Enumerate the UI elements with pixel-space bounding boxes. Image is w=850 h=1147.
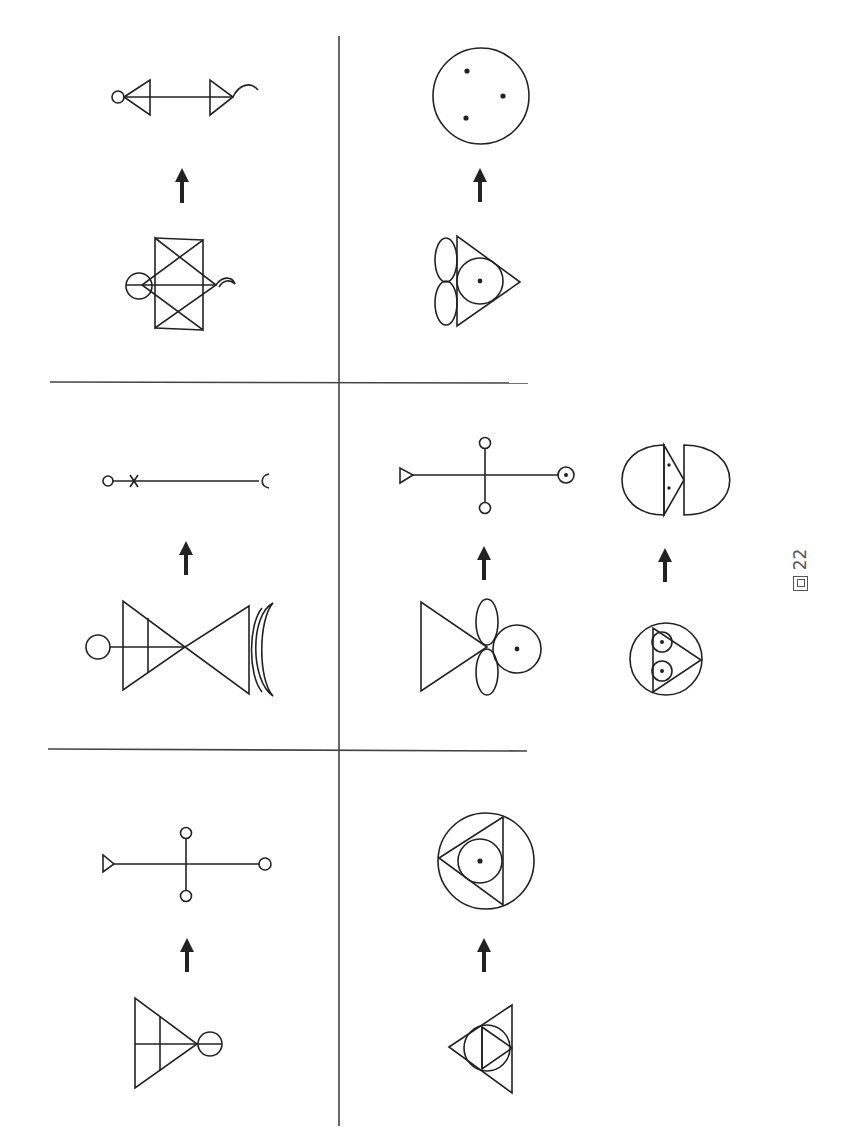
panel-top-left xyxy=(112,80,258,330)
source-figure-triangle-petals-circle xyxy=(421,599,541,695)
source-figure-triangle-ellipses xyxy=(435,236,520,326)
panel-middle-right xyxy=(400,438,574,696)
figure-canvas xyxy=(0,0,850,1147)
caption-prefix-glyph xyxy=(793,576,808,591)
panel-bottom-right xyxy=(438,813,534,1093)
result-figure-split-ellipse xyxy=(622,445,730,515)
up-arrow-icon xyxy=(473,168,487,202)
up-arrow-icon xyxy=(180,938,194,972)
source-figure-triangle-circle-inner-triangle xyxy=(449,1005,512,1093)
result-figure-circle-three-dots xyxy=(433,48,529,144)
result-figure-arrow-line xyxy=(112,80,258,115)
result-figure-circle-triangle-inscribed xyxy=(438,813,534,909)
up-arrow-icon xyxy=(477,546,491,580)
panel-bottom-left xyxy=(103,828,271,1089)
source-figure-bowtie xyxy=(86,601,273,696)
caption-number: 22 xyxy=(790,549,810,571)
figure-caption: 22 xyxy=(775,540,825,600)
result-figure-line-hook xyxy=(103,474,269,488)
up-arrow-icon xyxy=(658,548,672,582)
result-figure-cross-dotted-circle xyxy=(400,438,574,514)
source-figure-circle-triangle-circles xyxy=(630,623,702,695)
up-arrow-icon xyxy=(477,938,491,972)
panel-top-right xyxy=(433,48,529,326)
panel-middle-extra xyxy=(622,445,730,695)
panel-middle-left xyxy=(86,474,273,696)
dividers xyxy=(48,36,528,1126)
up-arrow-icon xyxy=(179,541,193,575)
result-figure-cross-triangle xyxy=(103,828,271,902)
source-figure-hexagram xyxy=(126,238,235,330)
source-figure-triangle-circle xyxy=(135,998,222,1088)
horizontal-divider-bottom xyxy=(48,749,527,751)
up-arrow-icon xyxy=(175,168,189,203)
horizontal-divider-top xyxy=(50,382,528,383)
